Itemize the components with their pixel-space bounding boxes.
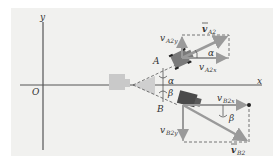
svg-text:v: v <box>160 33 165 43</box>
svg-text:B2x: B2x <box>222 97 235 104</box>
label-vA2x: v A2x <box>199 62 217 73</box>
svg-text:v: v <box>160 125 165 135</box>
alpha-label-a2: α <box>208 48 214 58</box>
x-axis-label: x <box>257 76 262 86</box>
collision-diagram: y x O A B α β α β v A2 v A2y v A2x v B2x… <box>0 0 278 162</box>
svg-text:B2y: B2y <box>165 129 178 137</box>
puck-b-label: B <box>156 104 164 114</box>
puck-a-label: A <box>152 56 160 66</box>
alpha-label: α <box>168 76 174 86</box>
svg-text:v: v <box>217 93 222 103</box>
label-vB2: v B2 <box>231 144 245 156</box>
svg-text:A2y: A2y <box>165 37 178 45</box>
svg-text:v: v <box>199 62 204 72</box>
vector-vA2 <box>182 37 226 58</box>
svg-text:B2: B2 <box>236 149 245 156</box>
label-vA2y: v A2y <box>160 33 178 45</box>
origin-label: O <box>32 87 40 97</box>
svg-text:A2: A2 <box>207 28 216 35</box>
label-vB2x: v B2x <box>217 93 235 104</box>
label-vB2y: v B2y <box>160 125 178 137</box>
beta-label-b2: β <box>228 113 234 123</box>
svg-text:A2x: A2x <box>204 66 217 73</box>
y-axis-label: y <box>39 12 46 22</box>
vector-vB2 <box>183 105 246 140</box>
label-vA2: v A2 <box>202 23 216 35</box>
beta-label: β <box>167 88 173 98</box>
